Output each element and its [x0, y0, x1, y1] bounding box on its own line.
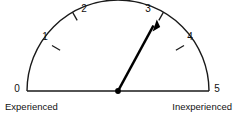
needle-pivot: [115, 88, 121, 94]
gauge-label-0: 0: [14, 83, 20, 94]
gauge-label-4: 4: [187, 31, 193, 42]
gauge-tick-4: [176, 46, 184, 51]
gauge-arc: [27, 0, 209, 91]
gauge-left-label: Experienced: [5, 101, 58, 112]
gauge-chart: 0 1 2 3 4 5 Experienced Inexperienced: [0, 0, 236, 118]
gauge-needle: [118, 26, 154, 92]
needle-arrowhead: [153, 19, 161, 31]
gauge-label-2: 2: [81, 3, 87, 14]
gauge-tick-1: [52, 46, 60, 51]
gauge-label-5: 5: [214, 83, 220, 94]
gauge-label-3: 3: [145, 3, 151, 14]
gauge-right-label: Inexperienced: [172, 101, 232, 112]
gauge-tick-2: [73, 12, 78, 20]
gauge-svg: 0 1 2 3 4 5 Experienced Inexperienced: [0, 0, 236, 118]
gauge-label-1: 1: [42, 31, 48, 42]
gauge-tick-3: [159, 12, 164, 20]
